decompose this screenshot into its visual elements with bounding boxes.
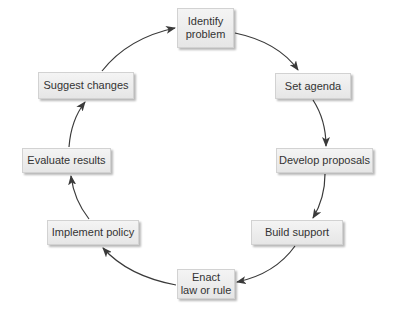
node-evaluate-results: Evaluate results	[22, 148, 111, 173]
node-set-agenda: Set agenda	[275, 73, 351, 99]
arrow-agenda-to-proposals	[313, 100, 326, 146]
node-develop-proposals: Develop proposals	[276, 148, 373, 173]
arrow-suggest-to-identify	[102, 28, 175, 71]
node-implement-policy: Implement policy	[47, 220, 139, 245]
arrow-evaluate-to-suggest	[69, 102, 85, 147]
arrow-proposals-to-support	[313, 174, 325, 218]
node-enact-law-or-rule: Enact law or rule	[177, 269, 235, 299]
arrow-identify-to-agenda	[235, 33, 298, 70]
arrow-enact-to-implement	[103, 248, 176, 285]
node-suggest-changes: Suggest changes	[38, 72, 134, 99]
node-build-support: Build support	[251, 220, 343, 245]
arrow-support-to-enact	[237, 246, 295, 282]
node-identify-problem: Identify problem	[177, 8, 234, 48]
arrow-implement-to-evaluate	[71, 176, 89, 219]
